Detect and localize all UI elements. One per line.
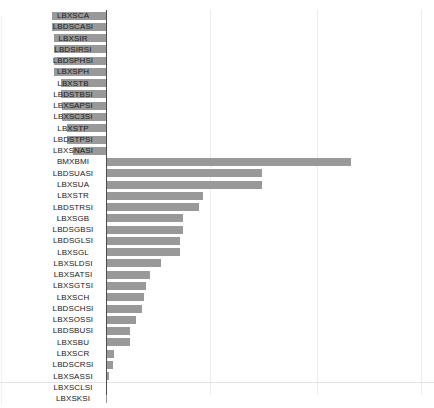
category-label: LBDSTBSI [42,89,104,100]
category-label: LBDSTPSI [42,134,104,145]
bar [106,271,150,279]
bar [106,293,144,301]
bar [106,395,107,403]
bar-row: LBXSKSI [0,393,434,404]
bar [106,181,262,189]
bar [106,237,180,245]
category-label: BMXBMI [42,156,104,167]
bar [106,192,203,200]
bar-row: LBDSPHSI [0,55,434,66]
bar [106,226,183,234]
bar [106,327,130,335]
bar [106,282,146,290]
category-label: LBXSCR [42,348,104,359]
bar [106,361,113,369]
bar-chart-figure: LBXSCALBDSCASILBXSIRLBDSIRSILBDSPHSILBXS… [0,0,434,408]
bar [106,350,114,358]
bar-row: LBXSOSSI [0,314,434,325]
bar-row: LBXSGL [0,247,434,258]
bar [106,259,161,267]
category-label: LBDSCHSI [42,303,104,314]
bar-row: LBDSUASI [0,168,434,179]
category-label: LBXSNASI [42,145,104,156]
bar-row: LBXSBU [0,337,434,348]
bar-row: LBXSNASI [0,145,434,156]
category-label: LBXSOSSI [42,314,104,325]
category-label: LBXSTB [42,78,104,89]
bar-row: LBXSATSI [0,269,434,280]
bar-row: LBXSTR [0,190,434,201]
category-label: LBXSCH [42,292,104,303]
category-label: LBXSAPSI [42,100,104,111]
bar-row: LBXSCLSI [0,382,434,393]
bar-row: LBXSTB [0,78,434,89]
bar-row: BMXBMI [0,156,434,167]
bar [106,248,180,256]
bar-row: LBDSCASI [0,21,434,32]
bar-row: LBXSAPSI [0,100,434,111]
bar-row: LBXSIR [0,33,434,44]
bar-row: LBXSCA [0,10,434,21]
category-label: LBDSBUSI [42,325,104,336]
category-label: LBDSGBSI [42,224,104,235]
category-label: LBXSC3SI [42,111,104,122]
bar-row: LBXSCR [0,348,434,359]
category-label: LBXSGL [42,247,104,258]
bar [106,305,142,313]
bar-row: LBDSCHSI [0,303,434,314]
bar-row: LBDSTBSI [0,89,434,100]
category-label: LBDSCASI [42,21,104,32]
bar-row: LBXSASSI [0,371,434,382]
bar-row: LBXSGTSI [0,280,434,291]
bar [106,169,262,177]
bar-row: LBXSTP [0,123,434,134]
bar-row: LBXSCH [0,292,434,303]
y-axis-line [106,10,107,395]
bar-row: LBDSCRSI [0,359,434,370]
category-label: LBXSASSI [42,371,104,382]
category-label: LBXSTP [42,123,104,134]
category-label: LBDSUASI [42,168,104,179]
bar [106,316,136,324]
category-label: LBDSGLSI [42,235,104,246]
category-label: LBXSGTSI [42,280,104,291]
bar [106,214,183,222]
category-label: LBXSATSI [42,269,104,280]
category-label: LBXSCLSI [42,382,104,393]
category-label: LBXSTR [42,190,104,201]
bar-row: LBXSUA [0,179,434,190]
category-label: LBXSGB [42,213,104,224]
category-label: LBXSLDSI [42,258,104,269]
bar-row: LBDSGLSI [0,235,434,246]
category-label: LBXSPH [42,66,104,77]
category-label: LBXSIR [42,33,104,44]
category-label: LBXSBU [42,337,104,348]
category-label: LBDSPHSI [42,55,104,66]
plot-area: LBXSCALBDSCASILBXSIRLBDSIRSILBDSPHSILBXS… [0,10,434,395]
bar [106,158,351,166]
category-label: LBXSUA [42,179,104,190]
bar-row: LBDSBUSI [0,325,434,336]
category-label: LBDSCRSI [42,359,104,370]
category-label: LBDSIRSI [42,44,104,55]
bar [106,338,130,346]
bar-row: LBDSTRSI [0,202,434,213]
category-label: LBXSCA [42,10,104,21]
bar [106,203,199,211]
bar-row: LBXSLDSI [0,258,434,269]
bar-row: LBDSIRSI [0,44,434,55]
bar-row: LBXSC3SI [0,111,434,122]
bar-row: LBDSGBSI [0,224,434,235]
category-label: LBDSTRSI [42,202,104,213]
category-label: LBXSKSI [42,393,104,404]
bar-row: LBDSTPSI [0,134,434,145]
bar-row: LBXSGB [0,213,434,224]
bar-row-container: LBXSCALBDSCASILBXSIRLBDSIRSILBDSPHSILBXS… [0,10,434,395]
bar-row: LBXSPH [0,66,434,77]
